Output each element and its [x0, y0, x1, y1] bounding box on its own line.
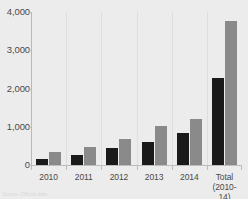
x-axis-label-main: 2011 [75, 172, 93, 182]
x-axis-label-main: 2013 [145, 172, 164, 182]
x-axis-tick-label: 2013 [137, 172, 172, 199]
bar [212, 78, 224, 165]
plot-area [31, 12, 242, 165]
x-axis-label-main: 2012 [110, 172, 129, 182]
bar [142, 142, 154, 165]
bar [177, 133, 189, 165]
bar [225, 21, 237, 165]
bar-groups [31, 12, 242, 165]
x-axis-tick-label: Total(2010-14) [207, 172, 242, 199]
bar-pair [137, 12, 172, 165]
bar [119, 139, 131, 165]
bar-group [31, 12, 66, 165]
x-axis-label-main: 2010 [39, 172, 58, 182]
y-axis-tick-label: 4,000 [0, 7, 30, 17]
x-axis-tick [207, 166, 242, 170]
x-axis-tick [66, 166, 101, 170]
x-axis-labels: 20102011201220132014Total(2010-14) [31, 172, 242, 199]
bar-pair [66, 12, 101, 165]
bar-group [66, 12, 101, 165]
bar [84, 147, 96, 165]
y-axis-tick-label: 0 [0, 160, 30, 170]
x-axis-tick [31, 166, 66, 170]
bar-pair [172, 12, 207, 165]
x-axis-tick-label: 2012 [101, 172, 136, 199]
x-axis-tick [172, 166, 207, 170]
bar-pair [101, 12, 136, 165]
bar [155, 126, 167, 165]
bar [49, 152, 61, 165]
bar [190, 119, 202, 165]
x-axis-tick-label: 2014 [172, 172, 207, 199]
bar-group [207, 12, 242, 165]
x-axis-tick [101, 166, 136, 170]
bar-chart: 01,0002,0003,0004,000 201020112012201320… [0, 0, 248, 199]
y-axis-tick-label: 1,000 [0, 122, 30, 132]
bar-group [137, 12, 172, 165]
bar-group [101, 12, 136, 165]
bar-pair [31, 12, 66, 165]
chart-footnote: Source: Official data [2, 191, 47, 197]
x-axis-label-sub: (2010-14) [207, 182, 242, 199]
bar-group [172, 12, 207, 165]
y-axis-tick-label: 3,000 [0, 45, 30, 55]
bar [71, 155, 83, 165]
x-axis-tick-label: 2011 [66, 172, 101, 199]
x-axis-label-main: Total [216, 172, 233, 182]
bar-pair [207, 12, 242, 165]
y-axis-tick-label: 2,000 [0, 84, 30, 94]
x-axis-ticks [31, 166, 242, 170]
x-axis-tick [137, 166, 172, 170]
y-axis-labels: 01,0002,0003,0004,000 [0, 0, 30, 199]
x-axis-label-main: 2014 [180, 172, 199, 182]
bar [106, 148, 118, 165]
